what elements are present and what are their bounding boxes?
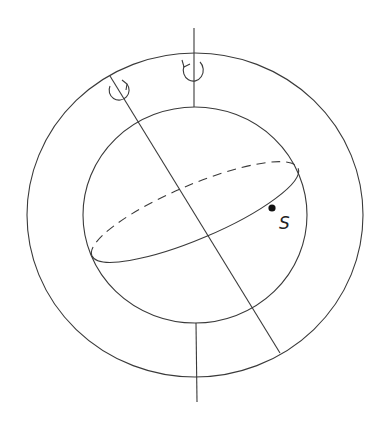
equator-front-solid [92,168,309,280]
tilted-axis [110,76,280,353]
point-s-label: S [279,213,290,233]
vertical-axis-rotation-arrow-icon [182,60,203,81]
point-s-marker [268,204,275,211]
vertical-axis-bottom [196,323,197,402]
sphere-diagram: S [0,0,385,425]
equator-back-dashed [81,143,298,255]
